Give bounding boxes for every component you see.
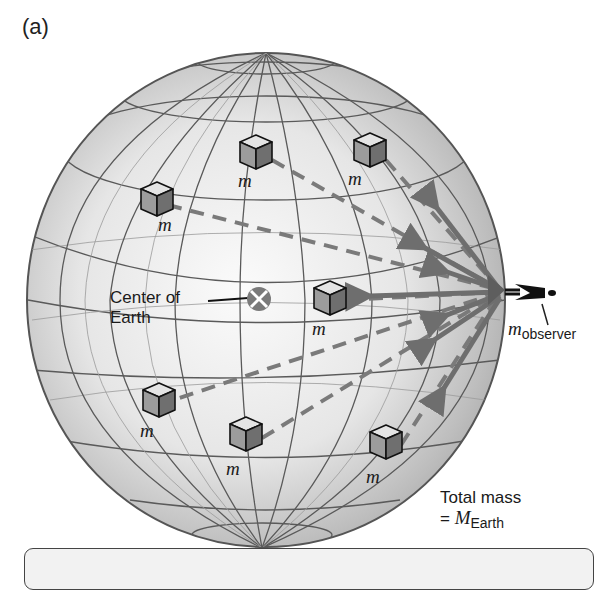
mass-block-icon: [141, 182, 173, 216]
mass-label: m: [238, 170, 252, 192]
mass-block-icon: [354, 133, 386, 167]
mass-block-icon: [143, 383, 175, 417]
center-of-earth-label: Center of Earth: [110, 288, 180, 328]
total-mass-label: Total mass = MEarth: [440, 488, 521, 533]
mass-label: m: [158, 214, 172, 236]
caption-box: [24, 548, 594, 590]
observer-label: mobserver: [508, 318, 576, 342]
mass-block-icon: [240, 135, 272, 169]
mass-label: m: [226, 458, 240, 480]
mass-block-icon: [314, 281, 346, 315]
mass-block-icon: [230, 417, 262, 451]
mass-label: m: [366, 466, 380, 488]
mass-label: m: [140, 420, 154, 442]
mass-label: m: [312, 318, 326, 340]
mass-block-icon: [370, 425, 402, 459]
mass-label: m: [348, 168, 362, 190]
